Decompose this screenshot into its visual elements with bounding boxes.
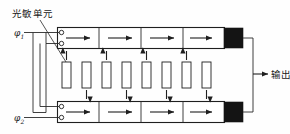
top-output-amplifier (224, 28, 243, 48)
bottom-terminal-phi2[interactable] (59, 115, 63, 119)
top-terminal-phi2[interactable] (59, 41, 63, 45)
photosensitive-cell (82, 62, 91, 88)
photosensitive-cell (142, 62, 151, 88)
charge-transfer-arrows-down (87, 90, 207, 99)
photosensitive-cell (162, 62, 171, 88)
clock-phase-wiring (24, 33, 59, 118)
bottom-terminal-phi1[interactable] (59, 104, 63, 108)
photosensitive-cell (102, 62, 111, 88)
top-shift-register (58, 28, 244, 49)
bottom-output-amplifier (224, 102, 243, 122)
photosensitive-cell-array (62, 51, 211, 99)
schematic-canvas (0, 0, 290, 134)
photosensitive-cell (122, 62, 131, 88)
output-bus (243, 38, 268, 112)
photosensitive-cell (202, 62, 211, 88)
ccd-schematic-figure: 光敏单元 φ 1 φ 2 输出 (0, 0, 290, 134)
top-terminal-phi1[interactable] (59, 30, 63, 34)
photosensitive-cell (62, 62, 71, 88)
charge-transfer-arrows-up (67, 51, 187, 60)
bottom-shift-register (58, 102, 244, 123)
photosensitive-cell (182, 62, 191, 88)
